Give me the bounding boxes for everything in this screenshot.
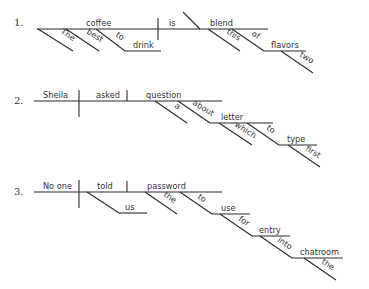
word-modifier: for	[237, 213, 252, 228]
indirect-object-slash	[87, 192, 119, 213]
word-modifier: drink	[133, 40, 154, 50]
word-modifier: a	[173, 100, 183, 111]
word-modifier: flavors	[271, 40, 299, 50]
word-modifier: us	[125, 202, 134, 212]
word-object: question	[146, 90, 181, 100]
word-modifier: chatroom	[300, 247, 339, 257]
word-modifier: use	[221, 203, 236, 213]
diagram-number: 3.	[14, 186, 24, 197]
word-modifier: entry	[259, 225, 281, 235]
word-modifier: about	[191, 97, 217, 118]
word-verb: told	[97, 181, 113, 191]
word-subject: Sheila	[43, 90, 68, 100]
word-modifier: to	[196, 191, 208, 204]
word-modifier: the	[320, 256, 337, 272]
word-modifier: type	[287, 134, 305, 144]
word-verb: is	[169, 18, 176, 28]
word-modifier: to	[114, 29, 126, 42]
word-modifier: which	[233, 119, 259, 140]
word-modifier: two	[298, 49, 316, 65]
word-modifier: to	[265, 122, 277, 135]
word-subject: No one	[43, 181, 72, 191]
diagram-number: 1.	[14, 17, 24, 28]
diagram-3: 3. No one told password us the to use fo…	[14, 180, 343, 280]
diagram-2: 2. Sheila asked question a about letter …	[14, 90, 323, 167]
diagram-number: 2.	[14, 95, 24, 106]
sentence-diagrams: 1. coffee is blend The best to drink thi…	[0, 0, 369, 289]
diagram-1: 1. coffee is blend The best to drink thi…	[14, 12, 316, 73]
word-modifier: of	[250, 28, 263, 41]
complement-divider	[183, 12, 200, 29]
word-verb: asked	[96, 90, 120, 100]
